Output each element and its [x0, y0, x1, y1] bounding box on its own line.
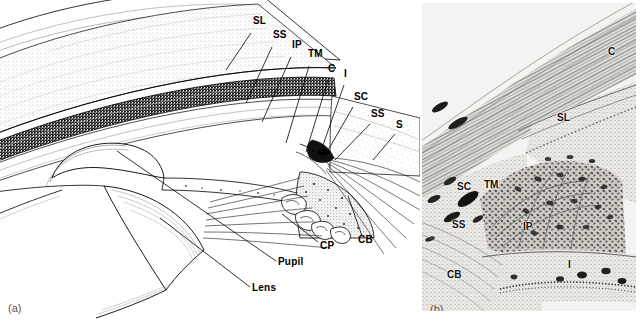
panel-letter-a: (a) — [8, 303, 21, 314]
label-a-c-4: C — [328, 64, 335, 74]
label-a-i-5: I — [344, 69, 347, 79]
panel-b-photomicrograph: (b) — [422, 3, 636, 311]
label-a-cb-9: CB — [358, 235, 373, 245]
label-a-ss-7: SS — [371, 109, 385, 119]
label-a-ip-2: IP — [292, 40, 302, 50]
label-b-ip-5: IP — [523, 222, 532, 232]
label-b-c-0: C — [608, 47, 615, 57]
lens — [0, 186, 204, 318]
label-a-cp-10: CP — [320, 241, 334, 251]
label-b-tm-3: TM — [484, 180, 498, 190]
label-a-tm-3: TM — [308, 49, 323, 59]
label-a-s-8: S — [396, 120, 403, 130]
panel-b-artwork — [422, 3, 636, 311]
label-a-sl-0: SL — [253, 16, 266, 26]
pupil-region — [46, 143, 302, 204]
label-b-sl-1: SL — [557, 113, 570, 123]
label-b-cb-7: CB — [447, 270, 461, 280]
label-b-ss-4: SS — [452, 220, 465, 230]
label-a-pupil-11: Pupil — [278, 257, 303, 267]
label-a-ss-1: SS — [273, 30, 287, 40]
figure-container: SLSSIPTMCISCSSSCBCPPupilLens (a) — [0, 0, 644, 328]
panel-letter-b: (b) — [430, 304, 443, 311]
posterior-chamber-line — [0, 185, 104, 192]
label-a-lens-12: Lens — [252, 283, 276, 293]
panel-a-artwork — [0, 0, 420, 328]
label-b-sc-2: SC — [457, 182, 471, 192]
label-a-sc-6: SC — [354, 92, 368, 102]
drainage-angle — [296, 140, 334, 174]
label-b-i-6: I — [568, 260, 571, 270]
ciliary-body — [281, 172, 374, 243]
panel-a-line-drawing: SLSSIPTMCISCSSSCBCPPupilLens (a) — [0, 0, 420, 328]
